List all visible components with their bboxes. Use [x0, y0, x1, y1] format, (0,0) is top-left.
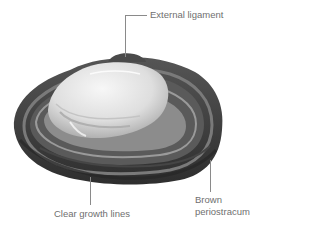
external-ligament-leader-vertical [125, 15, 126, 57]
clear-growth-lines-label: Clear growth lines [54, 208, 130, 220]
ligament-hinge [108, 53, 146, 62]
brown-periostracum-leader [210, 160, 211, 192]
brown-periostracum-label-line2: periostracum [195, 206, 250, 218]
external-ligament-label: External ligament [150, 9, 223, 21]
brown-periostracum-label-line1: Brown [195, 194, 222, 206]
clear-growth-lines-leader [90, 177, 91, 205]
external-ligament-leader-horizontal [125, 15, 147, 16]
